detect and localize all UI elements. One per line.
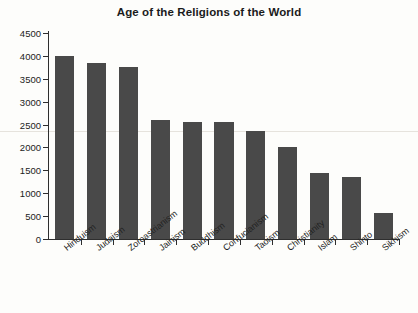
y-axis-tick-label: 2500 xyxy=(1,119,41,130)
bar-slot xyxy=(367,33,399,239)
y-axis-tick-label: 500 xyxy=(1,211,41,222)
chart-title: Age of the Religions of the World xyxy=(0,6,418,18)
bar-slot xyxy=(81,33,113,239)
y-axis-tick-label: 3500 xyxy=(1,73,41,84)
y-axis-labels: 050010001500200025003000350040004500 xyxy=(0,0,41,313)
bar xyxy=(342,177,361,239)
bar-slot xyxy=(49,33,81,239)
bar-slot xyxy=(335,33,367,239)
y-axis-tick-label: 4500 xyxy=(1,28,41,39)
bar xyxy=(119,67,138,239)
bar-slot xyxy=(304,33,336,239)
bar xyxy=(183,122,202,239)
y-axis-tick-label: 1000 xyxy=(1,188,41,199)
bar-chart: Age of the Religions of the World 050010… xyxy=(0,0,418,313)
bar-slot xyxy=(208,33,240,239)
y-axis-tick-label: 4000 xyxy=(1,50,41,61)
plot-area xyxy=(49,33,399,239)
bar-slot xyxy=(113,33,145,239)
y-axis-tick-label: 3000 xyxy=(1,96,41,107)
bar xyxy=(278,147,297,239)
y-axis-tick-label: 0 xyxy=(1,234,41,245)
bar-slot xyxy=(240,33,272,239)
bar-slot xyxy=(272,33,304,239)
y-axis-tick-label: 1500 xyxy=(1,165,41,176)
y-axis-tick-label: 2000 xyxy=(1,142,41,153)
bar xyxy=(55,56,74,239)
bar-slot xyxy=(176,33,208,239)
bar xyxy=(374,213,393,239)
bar xyxy=(87,63,106,239)
